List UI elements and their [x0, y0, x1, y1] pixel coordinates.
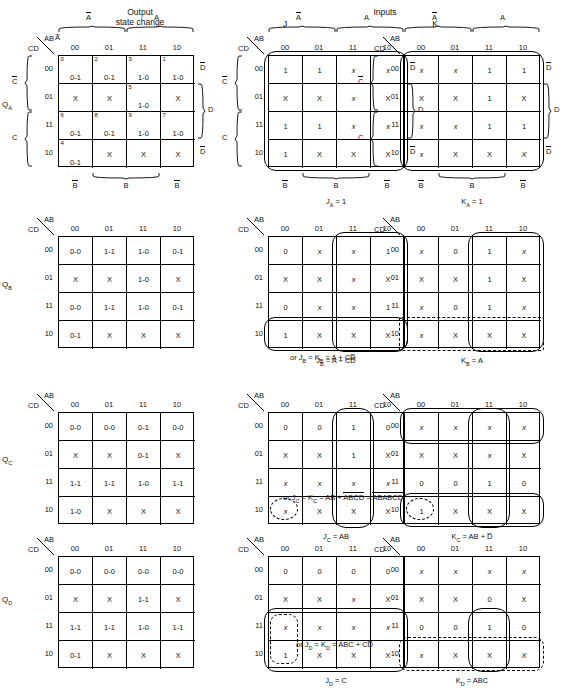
cell-value: X	[303, 507, 336, 516]
qd-or-mid: = K	[313, 640, 327, 649]
cell-value: X	[405, 450, 438, 459]
axis-diagonal-line	[247, 37, 264, 54]
qa-subscript: A	[8, 105, 12, 111]
col-header-11-2: 11	[126, 544, 160, 553]
row-header-00-0: 00	[248, 565, 263, 574]
bottom-label-notB-right: B	[506, 181, 540, 190]
cell-value: 0	[507, 622, 541, 631]
kmap-cell-r0c2: x	[337, 56, 371, 84]
col-header-00-0: 00	[58, 224, 92, 233]
cell-minterm: 2	[95, 56, 98, 62]
bottom-label-notB-left: B	[268, 181, 302, 190]
equation-rest: = 1	[333, 197, 346, 206]
brace-A-icon	[336, 25, 404, 33]
col-header-01-1: 01	[92, 400, 126, 409]
cell-minterm: 1	[163, 56, 166, 62]
kmap-cell-r3c3: X	[507, 321, 541, 349]
kmap-cell-r2c3: 0	[507, 613, 541, 641]
kmap-cell-r3c1: X	[93, 321, 127, 349]
col-header-01-1: 01	[438, 224, 472, 233]
brace-notA-icon	[268, 25, 336, 33]
col-header-11-2: 11	[126, 43, 160, 52]
kmap-cell-r0c0: 00-1	[59, 56, 93, 84]
row-group-C-label: C	[358, 133, 363, 142]
cell-minterm: 3	[129, 56, 132, 62]
kmap-cell-r2c1: x	[303, 613, 337, 641]
kmap-cell-r0c0: x	[405, 237, 439, 265]
cell-value: 1	[473, 274, 506, 283]
kmap-cell-r0c1: 0	[439, 237, 473, 265]
cell-value: 1	[269, 331, 302, 340]
col-header-10-3: 10	[506, 43, 540, 52]
cell-value: 1-1	[161, 478, 195, 487]
cell-value: X	[93, 594, 126, 603]
cell-value: x	[303, 302, 336, 311]
cell-value: X	[405, 93, 438, 102]
kmap-cell-r3c1: X	[93, 140, 127, 168]
kmap-grid: xx11XX1Xxx11xXXX	[404, 55, 540, 167]
kmap-cell-r0c1: 0	[303, 557, 337, 585]
kmap-cell-r3c2: X	[473, 140, 507, 168]
qb-or-mid: = K	[306, 353, 320, 362]
kmap-cell-r3c2: X	[337, 321, 371, 349]
kmap-cell-r3c2: X	[337, 140, 371, 168]
cell-value: 0-0	[59, 246, 92, 255]
kmap-cell-r2c0: 1-1	[59, 469, 93, 497]
kmap-cell-r2c2: x	[337, 112, 371, 140]
cell-value: 1	[473, 93, 506, 102]
bottom-label-B: B	[302, 181, 370, 190]
row-group-C-label: C	[222, 133, 227, 142]
cell-value: X	[507, 594, 541, 603]
cell-value: 1-0	[59, 507, 92, 516]
qd-or-prefix: or J	[296, 640, 309, 649]
kmap-grid: xxxxXX0X0010xXXX	[404, 556, 540, 668]
kmap-cell-r3c0: 1-0	[59, 497, 93, 525]
kmap-cell-r0c1: x	[439, 557, 473, 585]
cell-value: 0-1	[161, 302, 195, 311]
cell-minterm: 0	[61, 56, 64, 62]
kmap-qc-state: CDAB00011110000111100-00-00-10-0XX0-1X1-…	[58, 412, 234, 564]
kmap-cell-r3c3: X	[161, 321, 195, 349]
kmap-cell-r0c2: 1-0	[127, 237, 161, 265]
cell-value: X	[93, 150, 126, 159]
cell-value: X	[93, 651, 126, 660]
row-header-01-1: 01	[384, 593, 399, 602]
kmap-cell-r1c0: X	[405, 84, 439, 112]
qc-subscript: C	[8, 460, 12, 466]
cell-value: X	[473, 507, 506, 516]
cell-value: x	[473, 450, 506, 459]
cell-value: 0-1	[161, 246, 195, 255]
cell-value: 0	[439, 622, 472, 631]
row-header-00-0: 00	[38, 64, 53, 73]
row-header-10-3: 10	[384, 148, 399, 157]
row-header-00-0: 00	[248, 64, 263, 73]
kmap-cell-r2c2: 1-0	[127, 293, 161, 321]
kmap-cell-r1c1: X	[93, 265, 127, 293]
cell-value: x	[473, 422, 506, 431]
cell-value: 0-0	[161, 422, 195, 431]
equation-rest: = ABC	[465, 676, 489, 685]
row-header-11-2: 11	[248, 477, 263, 486]
right-label-notD-bottom: D	[546, 147, 551, 156]
cell-value: x	[405, 302, 438, 311]
kmap-equation-qa-k: KA = 1	[404, 197, 540, 208]
brace-A-icon	[472, 25, 540, 33]
kmap-equation-qc-k: KC = AB + D̅	[404, 532, 540, 543]
kmap-cell-r2c2: 1	[473, 293, 507, 321]
cell-value: X	[161, 594, 195, 603]
row-header-01-1: 01	[248, 449, 263, 458]
kmap-cell-r3c0: 1	[405, 497, 439, 525]
row-header-01-1: 01	[38, 593, 53, 602]
col-header-11-2: 11	[336, 400, 370, 409]
cell-minterm: 8	[95, 112, 98, 118]
col-header-00-0: 00	[58, 544, 92, 553]
cell-value: 1	[507, 65, 541, 74]
kmap-cell-r2c1: 1-1	[93, 293, 127, 321]
kmap-cell-r1c1: X	[303, 84, 337, 112]
row-header-11-2: 11	[248, 621, 263, 630]
cell-value: 1	[405, 507, 438, 516]
row-header-00-0: 00	[38, 565, 53, 574]
cell-value: X	[337, 331, 370, 340]
row-header-00-0: 00	[38, 421, 53, 430]
right-group-D-brace	[197, 83, 207, 139]
